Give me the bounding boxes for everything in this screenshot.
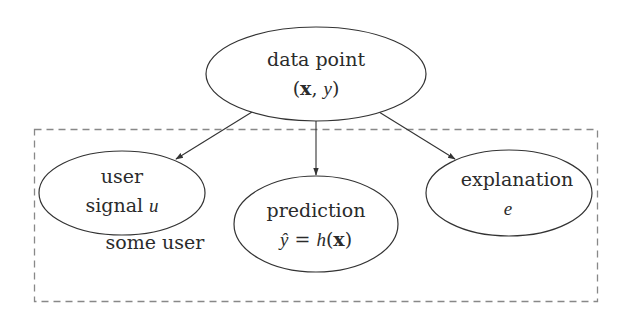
y-hat: ŷ (278, 229, 289, 250)
node-prediction: prediction ŷ = h(x) (234, 176, 398, 272)
prediction-ellipse (234, 176, 398, 272)
node-user-signal: user signal u (39, 151, 205, 235)
prediction-formula: ŷ = h(x) (278, 228, 352, 250)
separator: , (311, 77, 323, 99)
signal-text: signal (85, 194, 149, 216)
user-signal-label: user (101, 165, 144, 187)
user-signal-formula: signal u (85, 194, 158, 216)
edge-data-to-user (176, 112, 252, 159)
user-signal-ellipse (39, 151, 205, 235)
paren-open: ( (326, 228, 333, 250)
prediction-label: prediction (267, 199, 366, 221)
explanation-ellipse (426, 150, 592, 236)
variable-u: u (149, 195, 159, 216)
variable-e: e (504, 198, 512, 219)
group-label-some-user: some user (106, 231, 206, 253)
explanation-label: explanation (461, 168, 573, 190)
node-data-point: data point (x, y) (206, 27, 426, 121)
label-y: y (321, 78, 332, 99)
edge-data-to-explanation (379, 112, 455, 159)
data-point-label: data point (267, 48, 365, 70)
equals: = (288, 228, 316, 250)
paren-close: ) (345, 228, 352, 250)
feature-vector-x: x (333, 228, 345, 250)
paren-close: ) (332, 77, 339, 99)
data-point-ellipse (206, 27, 426, 121)
paren-open: ( (293, 77, 300, 99)
feature-vector-x: x (300, 77, 312, 99)
hypothesis-h: h (316, 229, 326, 250)
node-explanation: explanation e (426, 150, 592, 236)
data-point-formula: (x, y) (293, 77, 340, 99)
diagram-canvas: data point (x, y) user signal u predicti… (0, 0, 625, 317)
